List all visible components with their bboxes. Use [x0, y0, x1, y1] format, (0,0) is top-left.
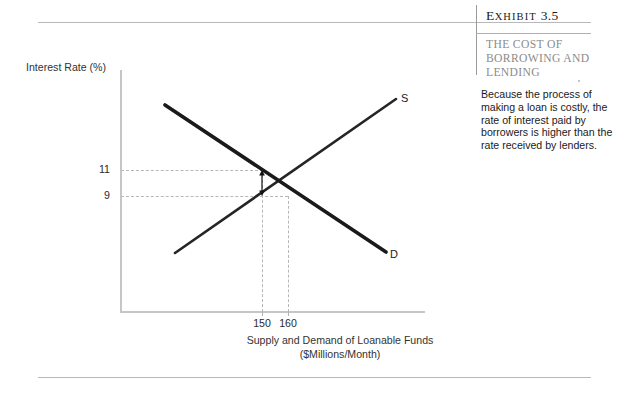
- exhibit-number-word: XHIBIT: [495, 11, 537, 22]
- exhibit-page: EXHIBIT 3.5 THE COST OF BORROWING AND LE…: [0, 0, 629, 393]
- supply-curve-label: S: [401, 92, 408, 104]
- exhibit-underline-rule: [476, 33, 591, 34]
- supply-demand-chart: Interest Rate (%) 11 9 150 160 S D Suppl…: [0, 0, 470, 393]
- x-axis-label: Supply and Demand of Loanable Funds ($Mi…: [240, 334, 440, 361]
- demand-curve-label: D: [390, 248, 398, 260]
- caption-divider: [476, 5, 477, 75]
- supply-curve-line: [175, 99, 396, 253]
- exhibit-description: Because the process of making a loan is …: [481, 88, 621, 152]
- demand-curve-line: [165, 105, 386, 252]
- exhibit-number-value: 3.5: [541, 8, 559, 23]
- exhibit-number-initial: E: [486, 8, 495, 23]
- exhibit-title: THE COST OF BORROWING AND LENDING: [486, 38, 611, 81]
- page-speck: [578, 80, 580, 82]
- exhibit-number: EXHIBIT 3.5: [486, 8, 559, 24]
- x-axis-label-line1: Supply and Demand of Loanable Funds: [240, 334, 440, 348]
- x-axis-label-line2: ($Millions/Month): [240, 348, 440, 362]
